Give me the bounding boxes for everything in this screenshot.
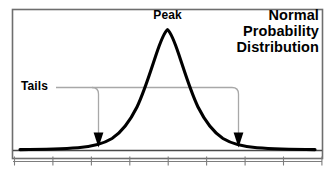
- chart-title: Normal Probability Distribution: [236, 7, 319, 56]
- chart-title-line-1: Normal: [236, 7, 319, 23]
- chart-title-line-2: Probability: [236, 23, 319, 39]
- chart-title-line-3: Distribution: [236, 39, 319, 55]
- normal-distribution-figure: Peak Tails Normal Probability Distributi…: [0, 0, 335, 170]
- tails-label: Tails: [21, 80, 48, 93]
